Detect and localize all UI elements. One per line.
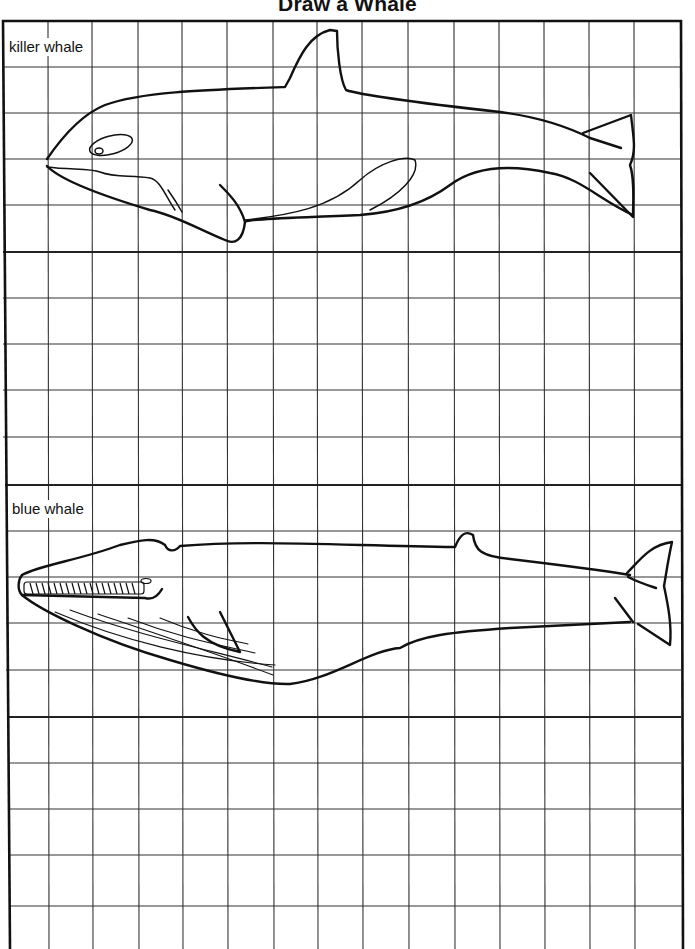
blue-whale-throat-grooves [55,610,275,675]
blue-whale-baleen [24,579,151,595]
blue-whale-drawing [19,533,672,684]
section-dividers [3,252,681,717]
section-label-killer-whale: killer whale [7,38,85,56]
killer-whale-drawing [47,30,634,242]
drawing-grid-sheet [0,0,695,949]
killer-whale-markings [47,131,416,220]
section-label-blue-whale: blue whale [10,500,86,518]
